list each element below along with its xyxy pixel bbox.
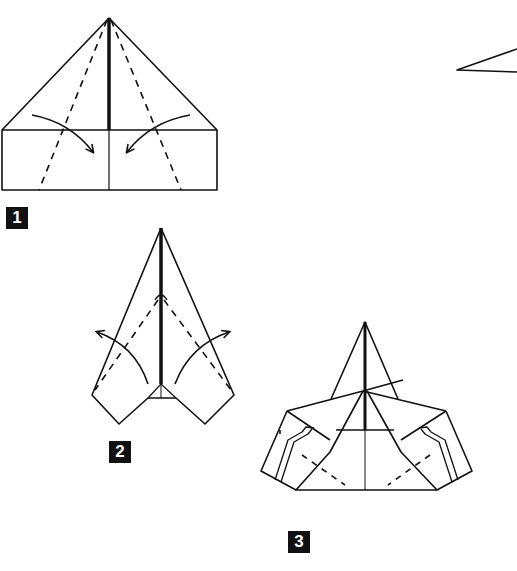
step-2-figure xyxy=(92,228,234,424)
step-1-badge: 1 xyxy=(6,207,28,229)
partial-airplane-figure xyxy=(457,49,517,72)
arrow-fold-in-left xyxy=(32,115,93,152)
folding-diagram xyxy=(0,0,517,571)
step-3-figure xyxy=(261,322,472,490)
step-3-badge: 3 xyxy=(288,531,310,553)
step-2-badge: 2 xyxy=(109,441,131,463)
step-1-figure xyxy=(2,18,217,190)
